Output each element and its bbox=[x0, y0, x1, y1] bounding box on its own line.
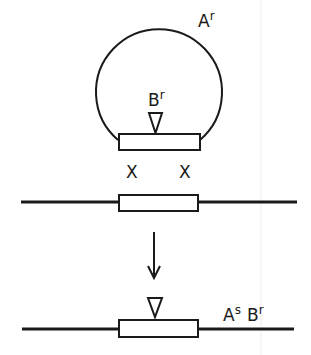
arrow-down-icon bbox=[148, 232, 160, 278]
result-homology-box bbox=[119, 320, 198, 337]
plasmid-insert-label: Br bbox=[148, 88, 165, 110]
plasmid-resistance-label: Ar bbox=[198, 9, 215, 31]
crossover-mark-left: X bbox=[126, 162, 138, 182]
plasmid-insert-triangle-icon bbox=[149, 113, 162, 133]
result-label-a: As bbox=[223, 303, 241, 325]
result-insert-triangle-icon bbox=[148, 298, 162, 317]
plasmid-homology-box bbox=[119, 134, 200, 150]
chromosome-homology-box bbox=[119, 195, 198, 211]
diagram-canvas: Ar Br X X As Br bbox=[0, 0, 311, 355]
crossover-mark-right: X bbox=[179, 162, 191, 182]
